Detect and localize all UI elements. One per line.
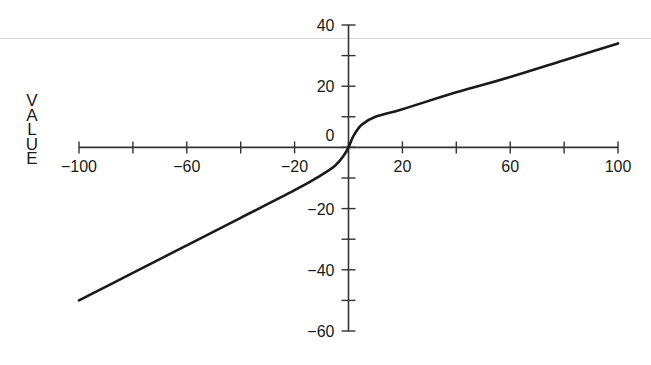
x-tick-label: 20 [394, 158, 412, 175]
x-tick-label: −100 [61, 158, 97, 175]
y-tick-label: −60 [307, 323, 334, 340]
axes [79, 25, 618, 331]
y-tick-label: 20 [317, 78, 335, 95]
x-tick-label: 100 [605, 158, 632, 175]
y-tick-label: 40 [317, 17, 335, 34]
x-tick-label: 60 [501, 158, 519, 175]
y-tick-label: −40 [307, 262, 334, 279]
y-tick-label: −20 [307, 201, 334, 218]
x-tick-label: −20 [281, 158, 308, 175]
x-tick-label: −60 [173, 158, 200, 175]
chart-plot: −100−60−20206010040200−20−40−60 [0, 0, 651, 365]
y-tick-label: 0 [326, 127, 335, 144]
